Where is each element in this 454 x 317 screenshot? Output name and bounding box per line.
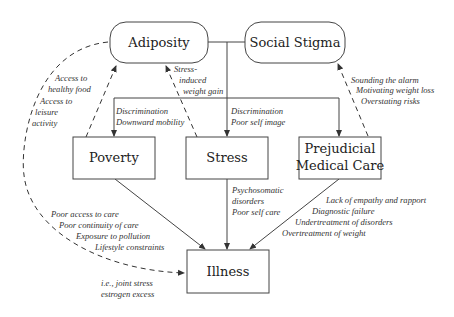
label-stress-discrimination: Discrimination Poor self image [230, 106, 286, 127]
node-illness: Illness [187, 250, 269, 293]
node-adiposity: Adiposity [110, 22, 208, 63]
svg-text:Poor continuity of care: Poor continuity of care [58, 220, 139, 230]
label-stress-induced-weight-gain: Stress- induced weight gain [174, 64, 223, 96]
svg-text:Poverty: Poverty [89, 150, 140, 165]
svg-text:induced: induced [179, 75, 207, 85]
svg-text:disorders: disorders [232, 196, 265, 206]
svg-text:Access to: Access to [54, 73, 88, 83]
svg-text:leisure: leisure [35, 107, 58, 117]
label-psychosomatic: Psychosomatic disorders Poor self care [231, 185, 284, 217]
svg-text:Medical Care: Medical Care [296, 158, 385, 173]
label-access-leisure: Access to leisure activity [32, 96, 73, 128]
svg-text:Prejudicial: Prejudicial [305, 141, 376, 156]
label-medical-to-illness: Lack of empathy and rapport Diagnostic f… [282, 195, 427, 238]
svg-text:Exposure to pollution: Exposure to pollution [75, 231, 150, 241]
svg-text:Social Stigma: Social Stigma [250, 35, 341, 50]
svg-text:Discrimination: Discrimination [230, 106, 283, 116]
svg-text:i.e., joint stress: i.e., joint stress [101, 278, 154, 288]
svg-text:Downward mobility: Downward mobility [115, 117, 184, 127]
svg-text:Motivating weight loss: Motivating weight loss [355, 85, 435, 95]
svg-text:Poor self image: Poor self image [230, 117, 286, 127]
svg-text:Illness: Illness [207, 264, 250, 279]
svg-text:Sounding the alarm: Sounding the alarm [351, 75, 419, 85]
dashed-poverty-to-adiposity [86, 66, 116, 137]
label-sounding-alarm: Sounding the alarm Motivating weight los… [351, 75, 435, 106]
obesity-illness-diagram: Adiposity Social Stigma Poverty Stress P… [0, 0, 454, 317]
svg-text:Lack of empathy and rapport: Lack of empathy and rapport [325, 195, 427, 205]
svg-text:Discrimination: Discrimination [115, 106, 168, 116]
svg-text:weight gain: weight gain [183, 86, 223, 96]
svg-text:activity: activity [32, 118, 57, 128]
node-social-stigma: Social Stigma [245, 22, 345, 63]
svg-text:healthy food: healthy food [48, 84, 91, 94]
svg-text:estrogen excess: estrogen excess [101, 289, 155, 299]
svg-text:Overstating risks: Overstating risks [361, 96, 421, 106]
svg-text:Undertreatment of disorders: Undertreatment of disorders [295, 217, 393, 227]
svg-text:Psychosomatic: Psychosomatic [231, 185, 284, 195]
svg-text:Poor access to care: Poor access to care [50, 209, 119, 219]
node-stress: Stress [186, 137, 268, 179]
label-poverty-discrimination: Discrimination Downward mobility [115, 106, 184, 127]
label-poverty-to-illness: Poor access to care Poor continuity of c… [50, 209, 165, 252]
node-prejudicial-medical-care: Prejudicial Medical Care [296, 137, 385, 179]
svg-text:Adiposity: Adiposity [127, 35, 190, 50]
svg-text:Overtreatment of weight: Overtreatment of weight [282, 228, 366, 238]
svg-text:Stress-: Stress- [174, 64, 197, 74]
svg-text:Diagnostic failure: Diagnostic failure [311, 206, 375, 216]
svg-text:Lifestyle constraints: Lifestyle constraints [94, 242, 165, 252]
label-adiposity-to-illness: i.e., joint stress estrogen excess [101, 278, 155, 299]
svg-text:Access to: Access to [39, 96, 73, 106]
node-poverty: Poverty [73, 137, 155, 179]
label-access-food: Access to healthy food [48, 73, 91, 94]
svg-text:Stress: Stress [206, 150, 247, 165]
svg-text:Poor self care: Poor self care [231, 207, 281, 217]
